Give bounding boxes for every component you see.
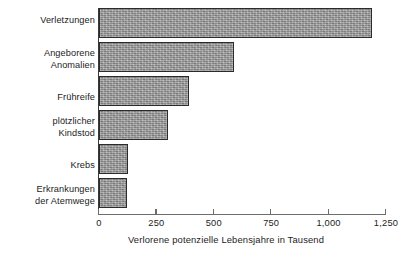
x-tick-1000 xyxy=(328,209,329,215)
x-tick-label-1000: 1,000 xyxy=(316,218,340,228)
category-label-fruehreife: Frühreife xyxy=(0,92,95,104)
category-label-ploetzlicher-kindstod: plötzlicher Kindstod xyxy=(0,116,95,139)
category-label-verletzungen: Verletzungen xyxy=(0,15,95,27)
category-label-erkrankungen-der-atemwege: Erkrankungen der Atemwege xyxy=(0,184,95,207)
bar-krebs xyxy=(99,144,128,174)
x-tick-750 xyxy=(270,209,271,215)
bar-chart: Verletzungen Angeborene Anomalien Frühre… xyxy=(0,0,418,258)
x-tick-0 xyxy=(98,209,99,215)
bar-verletzungen xyxy=(99,8,372,38)
bar-ploetzlicher-kindstod xyxy=(99,110,168,140)
category-label-angeborene-anomalien: Angeborene Anomalien xyxy=(0,48,95,71)
bar-angeborene-anomalien xyxy=(99,42,234,72)
x-tick-label-1250: 1,250 xyxy=(374,218,398,228)
x-tick-label-250: 250 xyxy=(148,218,164,228)
bar-erkrankungen-der-atemwege xyxy=(99,178,127,208)
x-tick-label-0: 0 xyxy=(96,218,101,228)
x-axis-line xyxy=(98,214,386,215)
x-tick-label-750: 750 xyxy=(263,218,279,228)
bar-fruehreife xyxy=(99,76,189,106)
y-axis-line xyxy=(98,8,99,215)
x-axis-title: Verlorene potenzielle Lebensjahre in Tau… xyxy=(0,234,418,245)
x-tick-250 xyxy=(155,209,156,215)
category-label-krebs: Krebs xyxy=(0,160,95,172)
x-tick-label-500: 500 xyxy=(206,218,222,228)
x-tick-500 xyxy=(213,209,214,215)
x-tick-1250 xyxy=(385,209,386,215)
plot-area xyxy=(99,8,386,214)
